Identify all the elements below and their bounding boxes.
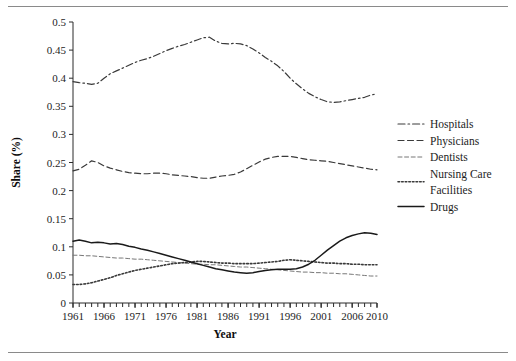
x-tick-label: 1961 — [62, 310, 84, 322]
x-tick-label: 1991 — [248, 310, 270, 322]
y-tick-label: 0.1 — [52, 241, 66, 253]
y-tick-label: 0 — [61, 297, 67, 309]
legend-label-drugs: Drugs — [430, 201, 459, 214]
y-tick-label: 0.15 — [47, 213, 67, 225]
legend-label-hospitals: Hospitals — [430, 118, 474, 131]
y-tick-label: 0.25 — [47, 157, 67, 169]
x-tick-label: 2006 — [341, 310, 364, 322]
y-tick-label: 0.2 — [52, 185, 66, 197]
x-tick-label: 1986 — [217, 310, 240, 322]
series-line-physicians — [73, 156, 377, 178]
x-tick-label: 1966 — [93, 310, 116, 322]
y-tick-label: 0.05 — [47, 269, 67, 281]
x-tick-label: 1981 — [186, 310, 208, 322]
x-tick-label: 1971 — [124, 310, 146, 322]
legend-label-physicians: Physicians — [430, 135, 480, 148]
y-axis-title: Share (%) — [10, 137, 23, 188]
legend-label-facilities: Facilities — [430, 184, 473, 196]
x-tick-label: 1976 — [155, 310, 178, 322]
y-tick-label: 0.5 — [52, 16, 66, 28]
series-line-hospitals — [73, 37, 377, 102]
x-tick-label: 1996 — [279, 310, 302, 322]
y-tick-label: 0.3 — [52, 128, 66, 140]
y-tick-label: 0.45 — [47, 44, 67, 56]
y-tick-label: 0.4 — [52, 72, 66, 84]
series-line-drugs — [73, 233, 377, 273]
x-tick-label: 2001 — [310, 310, 332, 322]
x-tick-label: 2010 — [366, 310, 389, 322]
series-line-dentists — [73, 255, 377, 276]
legend-label-dentists: Dentists — [430, 151, 468, 163]
y-tick-label: 0.35 — [47, 100, 67, 112]
figure-container: 00.050.10.150.20.250.30.350.40.450.51961… — [0, 0, 516, 361]
legend-label-nursing-care: Nursing Care — [430, 168, 492, 181]
x-axis-title: Year — [214, 328, 237, 340]
line-chart: 00.050.10.150.20.250.30.350.40.450.51961… — [0, 0, 516, 361]
series-line-nursing-care-facilities — [73, 260, 377, 285]
